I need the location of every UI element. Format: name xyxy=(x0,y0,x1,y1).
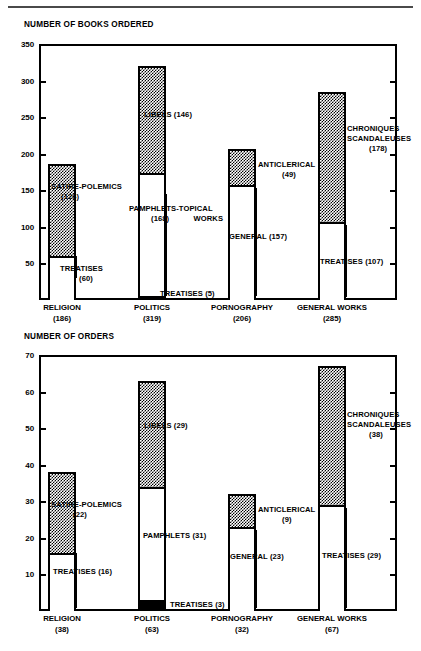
annotation-books-politics-libels: LIBELS (146) xyxy=(144,110,192,120)
leader-books-politics-pamphlets xyxy=(138,194,139,296)
ytick-label-books-150: 150 xyxy=(4,186,34,195)
leader-books-general-works-treatises xyxy=(346,225,347,297)
ytick-orders-40-left xyxy=(39,465,46,467)
ytick-orders-60-left xyxy=(39,392,46,394)
bar-segment-books-politics-pamphlets xyxy=(138,173,166,296)
ytick-label-orders-20: 20 xyxy=(4,534,34,543)
annotation-books-religion-upper: SATIRE-POLEMICS (126) xyxy=(51,182,122,202)
category-label-books-politics: POLITICS (319) xyxy=(112,303,192,324)
ytick-books-100-left xyxy=(39,227,46,229)
chart-title-orders: NUMBER OF ORDERS xyxy=(24,332,114,341)
annotation-orders-general-works-chroniques: CHRONIQUES SCANDALEUSES (38) xyxy=(347,410,411,440)
ytick-label-orders-40: 40 xyxy=(4,461,34,470)
ytick-orders-10-left xyxy=(39,574,46,576)
bar-segment-orders-politics-pamphlets xyxy=(138,487,166,600)
ytick-books-250-right xyxy=(390,117,397,119)
category-label-orders-politics: POLITICS (63) xyxy=(112,614,192,635)
bar-segment-books-pornography-anticlerical xyxy=(228,149,256,185)
bar-orders-religion xyxy=(48,472,76,611)
annotation-books-pornography-anticlerical: ANTICLERICAL (49) xyxy=(258,160,315,180)
bar-segment-books-general-works-chroniques xyxy=(318,92,346,222)
annotation-orders-politics-libels: LIBELS (29) xyxy=(144,421,188,431)
annotation-books-religion-lower: TREATISES (60) xyxy=(60,264,103,284)
leader-orders-pornography-general xyxy=(256,530,257,608)
annotation-orders-politics-pamphlets: PAMPHLETS (31) xyxy=(143,531,206,541)
bar-segment-orders-general-works-chroniques xyxy=(318,366,346,505)
bar-segment-books-pornography-general xyxy=(228,185,256,300)
ytick-books-300-left xyxy=(39,81,46,83)
bar-segment-books-religion-satire-polemics xyxy=(48,164,76,256)
bar-books-politics xyxy=(138,66,166,300)
annotation-orders-pornography-anticlerical: ANTICLERICAL (9) xyxy=(258,505,315,525)
leader-books-politics-pamphlets-2 xyxy=(166,194,167,296)
figure-page: NUMBER OF BOOKS ORDERED 350 300 250 200 … xyxy=(0,0,421,651)
ytick-orders-10-right xyxy=(390,574,397,576)
bar-books-pornography xyxy=(228,149,256,300)
ytick-label-books-300: 300 xyxy=(4,77,34,86)
ytick-label-books-200: 200 xyxy=(4,150,34,159)
ytick-orders-50-left xyxy=(39,428,46,430)
leader-books-pornography-general xyxy=(256,188,257,296)
bar-segment-orders-politics-treatises xyxy=(138,600,166,611)
annotation-books-general-works-chroniques: CHRONIQUES SCANDALEUSES (178) xyxy=(347,124,411,154)
ytick-label-orders-60: 60 xyxy=(4,388,34,397)
annotation-books-politics-pamphlets: PAMPHLETS-TOPICAL (168) WORKS xyxy=(129,204,223,224)
ytick-label-books-100: 100 xyxy=(4,223,34,232)
category-label-orders-general-works: GENERAL WORKS (67) xyxy=(288,614,376,635)
bar-segment-orders-politics-libels xyxy=(138,381,166,487)
ytick-label-books-250: 250 xyxy=(4,113,34,122)
chart-title-books: NUMBER OF BOOKS ORDERED xyxy=(24,20,154,29)
ytick-books-150-right xyxy=(390,190,397,192)
bar-orders-politics xyxy=(138,381,166,611)
ytick-orders-40-right xyxy=(390,465,397,467)
leader-orders-religion-lower xyxy=(76,553,77,608)
ytick-books-300-right xyxy=(390,81,397,83)
category-label-orders-religion: RELIGION (38) xyxy=(22,614,102,635)
ytick-label-books-50: 50 xyxy=(4,259,34,268)
annotation-orders-religion-lower: TREATISES (16) xyxy=(53,567,112,577)
annotation-orders-religion-upper: SATIRE-POLEMICS (22) xyxy=(51,500,122,520)
ytick-label-orders-10: 10 xyxy=(4,570,34,579)
header-rule xyxy=(8,6,413,8)
ytick-orders-30-right xyxy=(390,501,397,503)
ytick-orders-20-right xyxy=(390,538,397,540)
leader-books-religion-lower xyxy=(76,256,77,278)
ytick-books-250-left xyxy=(39,117,46,119)
ytick-orders-60-right xyxy=(390,392,397,394)
ytick-books-50-right xyxy=(390,263,397,265)
category-label-books-pornography: PORNOGRAPHY (206) xyxy=(198,303,286,324)
ytick-books-200-right xyxy=(390,154,397,156)
annotation-books-pornography-general: GENERAL (157) xyxy=(229,232,287,242)
ytick-books-50-left xyxy=(39,263,46,265)
category-label-books-general-works: GENERAL WORKS (285) xyxy=(288,303,376,324)
ytick-label-books-350: 350 xyxy=(4,40,34,49)
bar-books-general-works xyxy=(318,92,346,300)
category-label-orders-pornography: PORNOGRAPHY (32) xyxy=(198,614,286,635)
ytick-label-orders-50: 50 xyxy=(4,424,34,433)
ytick-books-100-right xyxy=(390,227,397,229)
annotation-books-general-works-treatises: TREATISES (107) xyxy=(320,257,383,267)
ytick-orders-30-left xyxy=(39,501,46,503)
bar-orders-general-works xyxy=(318,366,346,611)
category-label-books-religion: RELIGION (186) xyxy=(22,303,102,324)
ytick-label-orders-70: 70 xyxy=(4,351,34,360)
ytick-books-150-left xyxy=(39,190,46,192)
leader-orders-general-works-treatises xyxy=(346,508,347,608)
annotation-orders-politics-treatises: TREATISES (3) xyxy=(170,600,225,610)
bar-segment-orders-religion-treatises xyxy=(48,553,76,611)
ytick-orders-20-left xyxy=(39,538,46,540)
bar-segment-orders-pornography-general xyxy=(228,527,256,611)
ytick-label-orders-30: 30 xyxy=(4,497,34,506)
annotation-books-politics-treatises: TREATISES (5) xyxy=(160,289,215,299)
bar-segment-orders-pornography-anticlerical xyxy=(228,494,256,527)
annotation-orders-general-works-treatises: TREATISES (29) xyxy=(322,551,381,561)
ytick-books-200-left xyxy=(39,154,46,156)
